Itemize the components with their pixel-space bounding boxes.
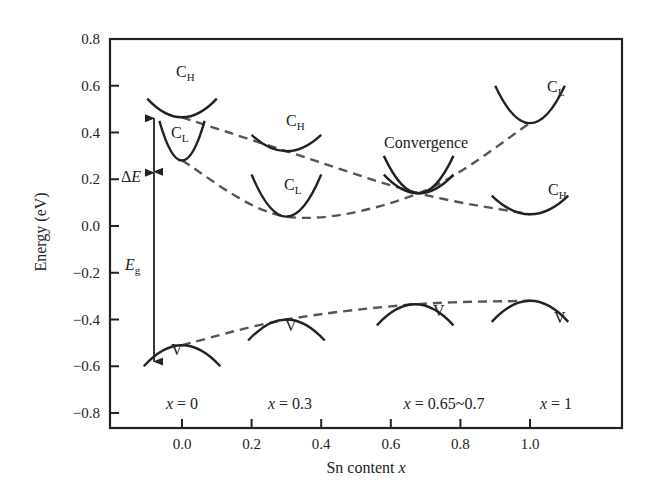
cl-trend-line [182, 123, 530, 218]
v-trend-line [182, 301, 530, 345]
x-tick-label: 0.0 [173, 436, 192, 452]
x-tick-label: 1.0 [521, 436, 540, 452]
conduction-cl-band-curve [384, 156, 454, 193]
conduction-ch-band-curve [384, 175, 454, 194]
y-tick-label: 0.6 [81, 78, 100, 94]
y-tick-label: 0.4 [81, 125, 100, 141]
band-gap-label: Eg [124, 256, 141, 276]
y-axis-title: Energy (eV) [32, 192, 50, 271]
y-tick-label: 0.0 [81, 218, 100, 234]
y-tick-label: −0.6 [73, 358, 101, 374]
y-tick-label: −0.2 [73, 265, 100, 281]
x-axis-ticks: 0.00.20.40.60.81.0 [173, 419, 540, 452]
cl-label-x1: CL [547, 78, 565, 98]
cl-label-x0: CL [171, 124, 189, 144]
cl-label-x03: CL [284, 176, 302, 196]
y-axis-ticks: 0.80.60.40.20.0−0.2−0.4−0.6−0.8 [73, 31, 119, 421]
v-label: V [433, 302, 445, 319]
conduction-ch-band-curve [492, 196, 569, 215]
y-tick-label: 0.2 [81, 171, 100, 187]
x-tick-label: 0.4 [312, 436, 331, 452]
band-diagram: 0.80.60.40.20.0−0.2−0.4−0.6−0.8 0.00.20.… [0, 0, 652, 501]
v-label: V [285, 317, 297, 334]
x-value-label: x = 0 [165, 395, 198, 412]
x-value-label: x = 0.65~0.7 [403, 395, 485, 412]
ch-trend-line [182, 117, 530, 214]
ch-label-x03: CH [286, 112, 305, 132]
v-label: V [554, 309, 566, 326]
y-tick-label: 0.8 [81, 31, 100, 47]
convergence-label: Convergence [384, 134, 468, 152]
x-tick-label: 0.2 [242, 436, 261, 452]
ch-label-x1: CH [548, 181, 567, 201]
band-sketches [144, 86, 569, 367]
annotations: CHCLCHCLCLCHVVVVConvergencex = 0x = 0.3x… [121, 63, 572, 412]
x-value-label: x = 1 [539, 395, 572, 412]
y-tick-label: −0.8 [73, 405, 100, 421]
conduction-ch-band-curve [252, 135, 322, 151]
y-tick-label: −0.4 [73, 312, 101, 328]
plot-frame [110, 39, 622, 428]
x-value-label: x = 0.3 [267, 395, 312, 412]
v-label: V [171, 341, 183, 358]
delta-e-label: ΔE [121, 168, 141, 185]
x-tick-label: 0.8 [451, 436, 470, 452]
x-axis-title: Sn content x [326, 459, 405, 476]
ch-label-x0: CH [176, 63, 195, 83]
trend-lines [182, 117, 530, 345]
conduction-ch-band-curve [147, 99, 217, 118]
x-tick-label: 0.6 [381, 436, 400, 452]
